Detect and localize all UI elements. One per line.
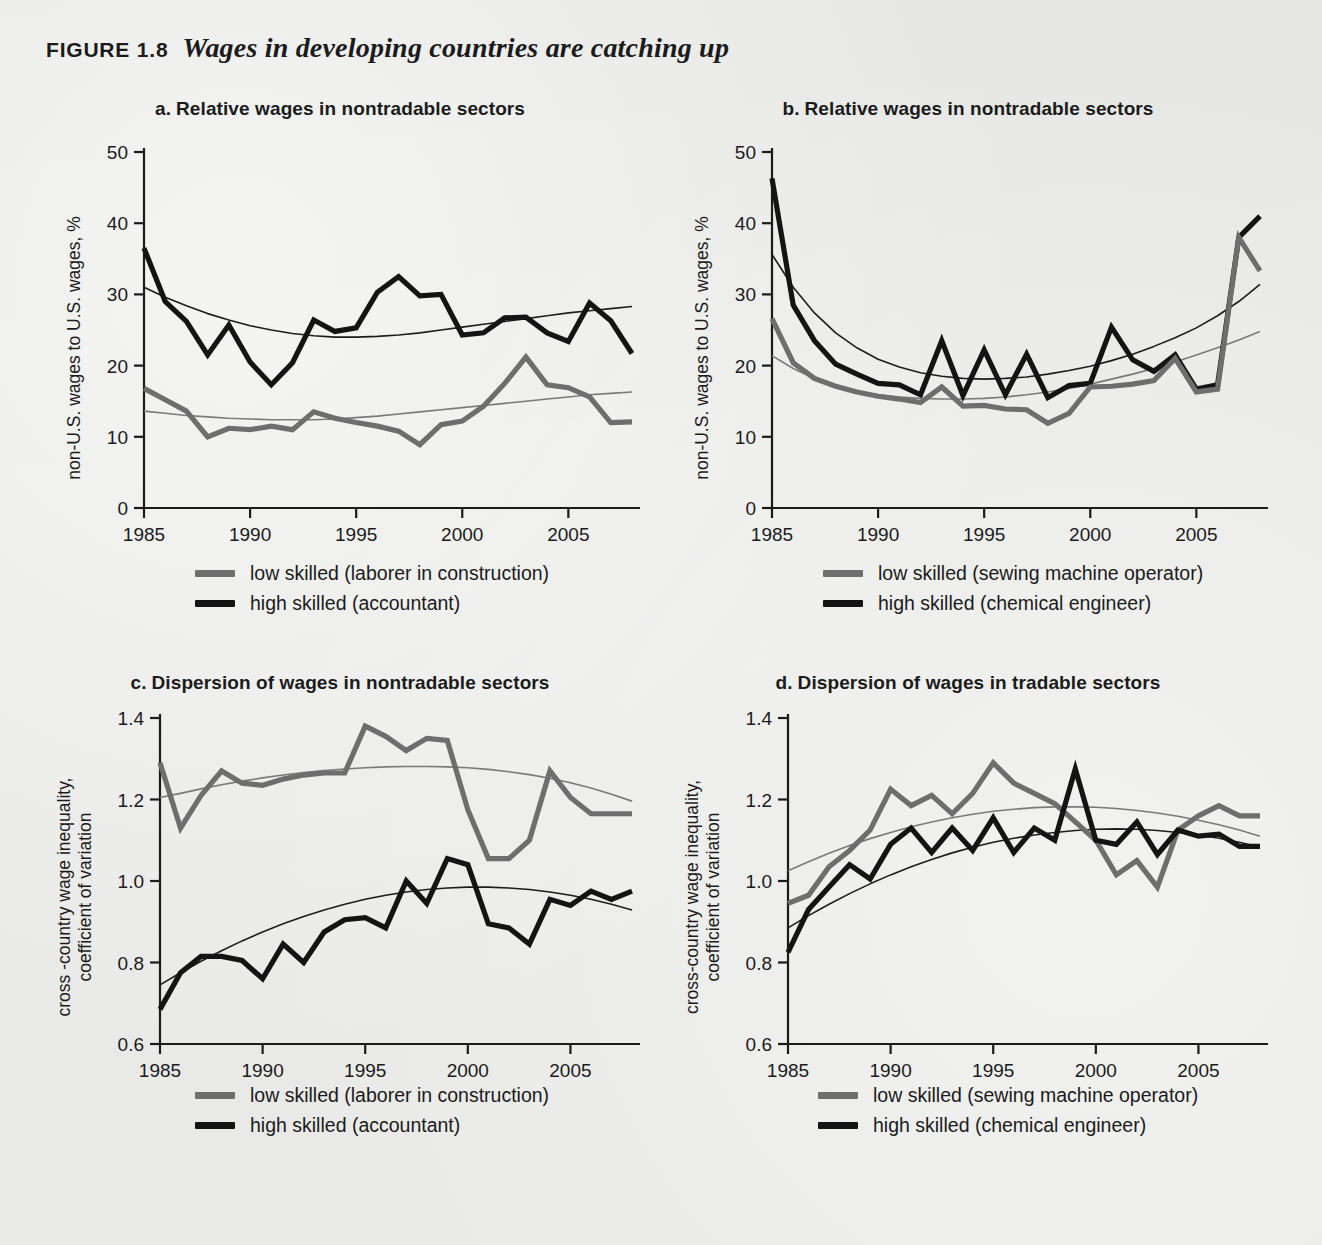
x-tick-label: 1990 [869,1060,911,1081]
y-tick-label: 0.6 [746,1034,772,1055]
x-tick-label: 2000 [441,524,483,545]
x-tick-label: 1985 [123,524,165,545]
y-tick-label: 20 [735,356,756,377]
x-tick-label: 1995 [963,524,1005,545]
figure-title-text: Wages in developing countries are catchi… [182,32,729,63]
panel-a-title-text: Relative wages in nontradable sectors [176,98,525,119]
x-tick-label: 1990 [857,524,899,545]
panel-c-letter: c. [130,672,146,693]
legend-label-high-skilled: high skilled (chemical engineer) [873,1114,1146,1137]
y-tick-label: 40 [107,213,128,234]
legend-swatch-high-skilled [818,1122,858,1129]
x-tick-label: 1985 [767,1060,809,1081]
x-tick-label: 1995 [972,1060,1014,1081]
figure-number: FIGURE 1.8 [46,38,168,61]
y-tick-label: 50 [735,142,756,163]
y-tick-label: 0.8 [118,953,144,974]
panel-c-title-text: Dispersion of wages in nontradable secto… [152,672,550,693]
y-tick-label: 0 [117,498,128,519]
panel-a-ylabel: non-U.S. wages to U.S. wages, % [64,168,85,528]
legend-item: high skilled (chemical engineer) [823,588,1203,618]
legend-label-high-skilled: high skilled (chemical engineer) [878,592,1151,615]
legend-item: high skilled (accountant) [195,1110,549,1140]
panel-d-ylabel: cross-country wage inequality, coefficie… [682,722,723,1072]
trend-line [772,255,1260,380]
legend-label-low-skilled: low skilled (sewing machine operator) [873,1084,1198,1107]
legend-label-high-skilled: high skilled (accountant) [250,1114,460,1137]
legend-label-high-skilled: high skilled (accountant) [250,592,460,615]
legend-swatch-high-skilled [823,600,863,607]
panel-d-title: d.Dispersion of wages in tradable sector… [668,672,1268,694]
y-tick-label: 0.6 [118,1034,144,1055]
panel-b: b.Relative wages in nontradable sectors … [668,98,1268,643]
panel-d-ylabel-line1: cross-country wage inequality, [682,722,703,1072]
panel-b-title-text: Relative wages in nontradable sectors [805,98,1154,119]
legend-item: low skilled (laborer in construction) [195,558,549,588]
legend-item: low skilled (laborer in construction) [195,1080,549,1110]
panel-d-plot: 0.60.81.01.21.419851990199520002005 [730,704,1268,1094]
legend-swatch-high-skilled [195,1122,235,1129]
y-tick-label: 40 [735,213,756,234]
legend-swatch-low-skilled [195,570,235,577]
panel-b-ylabel: non-U.S. wages to U.S. wages, % [692,168,713,528]
panel-c-title: c.Dispersion of wages in nontradable sec… [40,672,640,694]
y-tick-label: 1.4 [118,708,145,729]
data-line [772,178,1260,397]
y-tick-label: 1.2 [118,790,144,811]
panel-b-title: b.Relative wages in nontradable sectors [668,98,1268,120]
x-tick-label: 1985 [139,1060,181,1081]
panel-b-plot: 0102030405019851990199520002005 [720,138,1268,558]
x-tick-label: 2005 [1177,1060,1219,1081]
panel-d-title-text: Dispersion of wages in tradable sectors [798,672,1161,693]
y-tick-label: 10 [735,427,756,448]
legend-swatch-low-skilled [818,1092,858,1099]
data-line [788,769,1260,952]
y-tick-label: 50 [107,142,128,163]
panel-d-legend: low skilled (sewing machine operator) hi… [818,1080,1198,1140]
x-tick-label: 2005 [549,1060,591,1081]
x-tick-label: 1995 [344,1060,386,1081]
y-tick-label: 0.8 [746,953,772,974]
panel-b-legend: low skilled (sewing machine operator) hi… [823,558,1203,618]
panel-c-legend: low skilled (laborer in construction) hi… [195,1080,549,1140]
legend-label-low-skilled: low skilled (laborer in construction) [250,562,549,585]
x-tick-label: 2000 [1075,1060,1117,1081]
panel-a-legend: low skilled (laborer in construction) hi… [195,558,549,618]
trend-line [144,392,632,420]
y-tick-label: 30 [107,284,128,305]
panel-d: d.Dispersion of wages in tradable sector… [668,672,1268,1192]
data-line [160,859,632,1010]
x-tick-label: 1990 [229,524,271,545]
panel-d-letter: d. [776,672,793,693]
panel-b-letter: b. [782,98,799,119]
panel-c-plot: 0.60.81.01.21.419851990199520002005 [102,704,640,1094]
legend-item: low skilled (sewing machine operator) [818,1080,1198,1110]
y-tick-label: 10 [107,427,128,448]
panel-a-title: a.Relative wages in nontradable sectors [40,98,640,120]
legend-swatch-low-skilled [823,570,863,577]
y-tick-label: 1.4 [746,708,773,729]
data-line [160,726,632,858]
x-tick-label: 2000 [447,1060,489,1081]
panel-a-letter: a. [155,98,171,119]
panel-c-ylabel: cross -country wage inequality, coeffici… [54,722,95,1072]
legend-item: high skilled (accountant) [195,588,549,618]
legend-item: low skilled (sewing machine operator) [823,558,1203,588]
panel-c-ylabel-line1: cross -country wage inequality, [54,722,75,1072]
x-tick-label: 1995 [335,524,377,545]
x-tick-label: 2005 [1175,524,1217,545]
panel-a-plot: 0102030405019851990199520002005 [92,138,640,558]
panel-c-ylabel-line2: coefficient of variation [75,722,96,1072]
y-tick-label: 20 [107,356,128,377]
x-tick-label: 2005 [547,524,589,545]
legend-item: high skilled (chemical engineer) [818,1110,1198,1140]
legend-label-low-skilled: low skilled (sewing machine operator) [878,562,1203,585]
panel-a: a.Relative wages in nontradable sectors … [40,98,640,643]
x-tick-label: 2000 [1069,524,1111,545]
trend-line [144,287,632,337]
figure-title: FIGURE 1.8Wages in developing countries … [46,32,729,64]
y-tick-label: 1.0 [118,871,144,892]
y-tick-label: 1.2 [746,790,772,811]
panel-d-ylabel-line2: coefficient of variation [703,722,724,1072]
legend-label-low-skilled: low skilled (laborer in construction) [250,1084,549,1107]
